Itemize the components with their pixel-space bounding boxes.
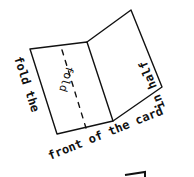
partial-stroke-bottom [125, 172, 145, 177]
card-left-panel [30, 42, 113, 134]
instruction-text-fold-the: fold the [11, 55, 42, 114]
instruction-text-front-of-card: front of the card [46, 104, 165, 163]
fold-marker-label: fold [56, 64, 76, 93]
instruction-text-in-half: in half [136, 59, 168, 111]
fold-card-diagram: fold fold the front of the card in half [0, 0, 194, 177]
